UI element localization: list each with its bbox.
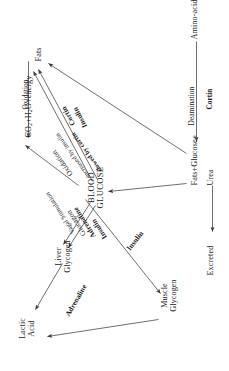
diagram-page: Lactic Acid Liver Glycogen Muscle Glycog… xyxy=(0,0,229,371)
edge-glucose-to-muscle xyxy=(85,199,160,293)
node-lactic-acid-line2: Acid xyxy=(27,307,36,349)
node-urea: Urea xyxy=(206,151,214,185)
edge-muscle-to-lactic xyxy=(47,319,158,336)
node-amino-acids: Amino-acids xyxy=(190,0,198,39)
co2-formula-mid: +H xyxy=(23,112,32,123)
co2-formula-pre: CO xyxy=(23,125,32,137)
node-liver-glycogen: Liver Glycogen xyxy=(54,233,71,279)
node-liver-glycogen-line2: Glycogen xyxy=(63,233,72,279)
edge-fgu-to-glucose xyxy=(108,183,186,191)
label-oxidation-fats: Oxidation xyxy=(20,79,29,109)
diagram-canvas: Lactic Acid Liver Glycogen Muscle Glycog… xyxy=(0,0,229,371)
node-excreted: Excreted xyxy=(206,231,214,275)
label-deamination: Deamination xyxy=(186,86,195,125)
node-lactic-acid: Lactic Acid xyxy=(18,307,35,349)
node-fgu-part-a: Fats+Glucose+ xyxy=(189,134,198,185)
node-muscle-glycogen: Muscle Glycogen xyxy=(160,271,177,319)
label-cortin-deamination: Cortin xyxy=(204,88,213,109)
node-muscle-glycogen-line2: Glycogen xyxy=(169,271,178,319)
node-fats: Fats xyxy=(34,35,42,61)
node-muscle-glycogen-line1: Muscle xyxy=(160,271,169,319)
node-lactic-acid-line1: Lactic xyxy=(18,307,27,349)
node-liver-glycogen-line1: Liver xyxy=(54,233,63,279)
